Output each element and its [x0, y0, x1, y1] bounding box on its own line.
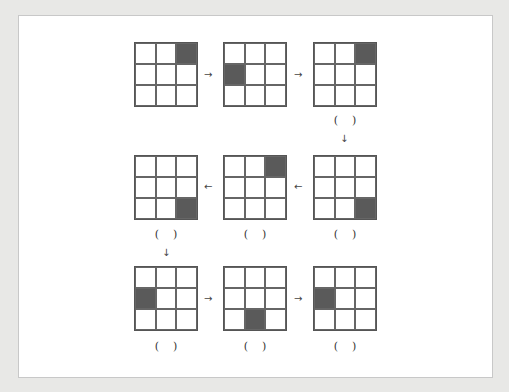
- empty-cell: [135, 309, 156, 330]
- grid-6: [134, 155, 198, 220]
- empty-cell: [135, 177, 156, 198]
- empty-cell: [335, 288, 356, 309]
- filled-cell: [176, 43, 197, 64]
- empty-cell: [135, 156, 156, 177]
- empty-cell: [314, 85, 335, 106]
- empty-cell: [335, 85, 356, 106]
- empty-cell: [314, 156, 335, 177]
- empty-cell: [355, 309, 376, 330]
- empty-cell: [265, 85, 286, 106]
- empty-cell: [176, 177, 197, 198]
- empty-cell: [224, 156, 245, 177]
- empty-cell: [335, 64, 356, 85]
- answer-blank-7[interactable]: ( ): [134, 340, 198, 353]
- empty-cell: [156, 156, 177, 177]
- grid-8: [223, 266, 287, 331]
- empty-cell: [156, 177, 177, 198]
- empty-cell: [156, 309, 177, 330]
- empty-cell: [176, 288, 197, 309]
- grid-2: [223, 42, 287, 107]
- empty-cell: [314, 267, 335, 288]
- filled-cell: [355, 43, 376, 64]
- empty-cell: [265, 177, 286, 198]
- empty-cell: [135, 85, 156, 106]
- answer-blank-6[interactable]: ( ): [134, 228, 198, 241]
- empty-cell: [135, 198, 156, 219]
- filled-cell: [135, 288, 156, 309]
- empty-cell: [245, 85, 266, 106]
- empty-cell: [265, 198, 286, 219]
- grid-5: [223, 155, 287, 220]
- arrow-right-3: →: [204, 294, 212, 304]
- empty-cell: [355, 177, 376, 198]
- filled-cell: [245, 309, 266, 330]
- empty-cell: [245, 198, 266, 219]
- empty-cell: [355, 64, 376, 85]
- empty-cell: [156, 267, 177, 288]
- arrow-right-2: →: [294, 70, 302, 80]
- empty-cell: [176, 85, 197, 106]
- empty-cell: [156, 43, 177, 64]
- answer-blank-4[interactable]: ( ): [313, 228, 377, 241]
- filled-cell: [176, 198, 197, 219]
- grid-1: [134, 42, 198, 107]
- empty-cell: [355, 156, 376, 177]
- empty-cell: [224, 288, 245, 309]
- empty-cell: [314, 64, 335, 85]
- empty-cell: [245, 288, 266, 309]
- arrow-down-2: ↓: [162, 248, 170, 258]
- empty-cell: [156, 85, 177, 106]
- empty-cell: [176, 64, 197, 85]
- filled-cell: [314, 288, 335, 309]
- arrow-left-1: ←: [294, 182, 302, 192]
- empty-cell: [156, 64, 177, 85]
- grid-9: [313, 266, 377, 331]
- filled-cell: [224, 64, 245, 85]
- empty-cell: [135, 43, 156, 64]
- empty-cell: [156, 288, 177, 309]
- filled-cell: [355, 198, 376, 219]
- empty-cell: [265, 64, 286, 85]
- empty-cell: [224, 43, 245, 64]
- empty-cell: [224, 177, 245, 198]
- empty-cell: [265, 288, 286, 309]
- empty-cell: [355, 267, 376, 288]
- empty-cell: [224, 267, 245, 288]
- arrow-left-2: ←: [204, 182, 212, 192]
- empty-cell: [355, 85, 376, 106]
- empty-cell: [245, 64, 266, 85]
- empty-cell: [224, 309, 245, 330]
- empty-cell: [335, 43, 356, 64]
- empty-cell: [314, 177, 335, 198]
- empty-cell: [135, 64, 156, 85]
- grid-7: [134, 266, 198, 331]
- empty-cell: [176, 267, 197, 288]
- filled-cell: [265, 156, 286, 177]
- empty-cell: [314, 198, 335, 219]
- answer-blank-3[interactable]: ( ): [313, 114, 377, 127]
- answer-blank-5[interactable]: ( ): [223, 228, 287, 241]
- empty-cell: [335, 309, 356, 330]
- arrow-right-1: →: [204, 70, 212, 80]
- empty-cell: [245, 156, 266, 177]
- empty-cell: [335, 198, 356, 219]
- empty-cell: [224, 198, 245, 219]
- grid-4: [313, 155, 377, 220]
- empty-cell: [335, 177, 356, 198]
- empty-cell: [224, 85, 245, 106]
- empty-cell: [265, 309, 286, 330]
- empty-cell: [245, 177, 266, 198]
- empty-cell: [245, 267, 266, 288]
- empty-cell: [176, 309, 197, 330]
- answer-blank-8[interactable]: ( ): [223, 340, 287, 353]
- empty-cell: [314, 309, 335, 330]
- answer-blank-9[interactable]: ( ): [313, 340, 377, 353]
- grid-3: [313, 42, 377, 107]
- empty-cell: [176, 156, 197, 177]
- empty-cell: [245, 43, 266, 64]
- arrow-right-4: →: [294, 294, 302, 304]
- arrow-down-1: ↓: [340, 134, 348, 144]
- empty-cell: [355, 288, 376, 309]
- empty-cell: [265, 267, 286, 288]
- empty-cell: [135, 267, 156, 288]
